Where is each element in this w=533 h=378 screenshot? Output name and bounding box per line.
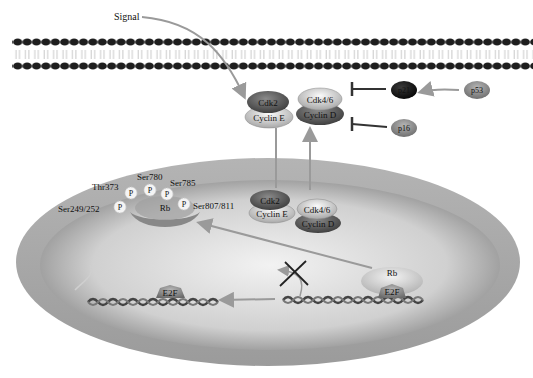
signal-label: Signal — [114, 11, 140, 22]
cdk46-cyclin-d-complex-cytoplasm: Cdk4/6 Cyclin D — [296, 88, 344, 125]
transcription-arrow — [222, 299, 275, 300]
cyclin-e-nuclear-label: Cyclin E — [256, 209, 288, 219]
cyclin-e-label: Cyclin E — [253, 113, 285, 123]
phospho-site-ser249: P — [114, 201, 126, 213]
cyclin-d-label: Cyclin D — [304, 110, 337, 120]
cdk2-cyclin-e-complex-cytoplasm: Cdk2 Cyclin E — [245, 91, 293, 128]
phospho-site-thr373: P — [125, 187, 137, 199]
p21-protein: p21 — [391, 81, 417, 99]
phospho-site-ser785: P — [161, 188, 173, 200]
rb-phospho-label: Rb — [160, 203, 171, 213]
cdk46-label: Cdk4/6 — [307, 95, 334, 105]
svg-text:P: P — [129, 189, 134, 198]
site-label-ser780: Ser780 — [137, 172, 163, 182]
p16-label: p16 — [398, 124, 410, 133]
svg-text:P: P — [118, 203, 123, 212]
svg-text:P: P — [182, 200, 187, 209]
cdk46-cyclin-d-complex-nucleus: Cdk4/6 Cyclin D — [295, 199, 341, 233]
cell-membrane — [12, 38, 533, 70]
p53-label: p53 — [471, 86, 483, 95]
phospho-site-ser780: P — [144, 184, 156, 196]
cdk2-nuclear-label: Cdk2 — [260, 196, 280, 206]
svg-text:P: P — [148, 186, 153, 195]
site-label-ser785: Ser785 — [170, 178, 196, 188]
cyclin-d-nuclear-label: Cyclin D — [302, 219, 335, 229]
p16-protein: p16 — [391, 119, 417, 137]
rb-bound-label: Rb — [387, 268, 398, 278]
site-label-ser807-811: Ser807/811 — [193, 201, 234, 211]
p53-protein: p53 — [464, 81, 490, 99]
cell-cycle-diagram: Signal Cdk2 Cyclin E Cdk4/6 Cyclin D p21… — [0, 0, 533, 378]
phospho-site-ser807: P — [178, 198, 190, 210]
site-label-ser249-252: Ser249/252 — [58, 204, 100, 214]
p53-activation-arrow — [421, 89, 459, 92]
cdk2-label: Cdk2 — [258, 98, 278, 108]
p16-inhibition-line — [352, 124, 387, 127]
e2f-bound-label: E2F — [384, 287, 399, 297]
p21-label: p21 — [398, 86, 410, 95]
cdk46-nuclear-label: Cdk4/6 — [304, 205, 331, 215]
svg-text:P: P — [165, 190, 170, 199]
e2f-free-label: E2F — [162, 288, 177, 298]
site-label-thr373: Thr373 — [92, 182, 119, 192]
